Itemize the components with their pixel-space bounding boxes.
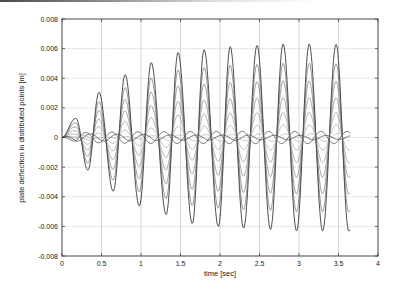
y-tick-label: -0.008 bbox=[38, 253, 58, 260]
x-axis-title: time [sec] bbox=[204, 269, 236, 278]
x-tick-label: 4 bbox=[376, 260, 380, 267]
x-tick-label: 1.5 bbox=[176, 260, 186, 267]
y-tick-label: 0.006 bbox=[40, 45, 58, 52]
x-tick-label: 0 bbox=[60, 260, 64, 267]
x-tick-label: 3.5 bbox=[334, 260, 344, 267]
y-tick-label: -0.006 bbox=[38, 223, 58, 230]
data-series bbox=[62, 44, 350, 231]
x-tick-label: 2 bbox=[218, 260, 222, 267]
y-tick-label: -0.004 bbox=[38, 193, 58, 200]
y-tick-label: 0.008 bbox=[40, 16, 58, 23]
y-tick-label: 0 bbox=[54, 134, 58, 141]
deflection-chart: 0.0080.0060.0040.0020-0.002-0.004-0.006-… bbox=[0, 0, 399, 293]
y-tick-label: 0.002 bbox=[40, 104, 58, 111]
x-tick-label: 1 bbox=[139, 260, 143, 267]
x-tick-label: 3 bbox=[297, 260, 301, 267]
x-tick-label: 2.5 bbox=[255, 260, 265, 267]
y-tick-label: 0.004 bbox=[40, 75, 58, 82]
x-tick-label: 0.5 bbox=[97, 260, 107, 267]
y-axis-title: plate deflection in distributed points [… bbox=[17, 73, 26, 203]
y-tick-label: -0.002 bbox=[38, 164, 58, 171]
